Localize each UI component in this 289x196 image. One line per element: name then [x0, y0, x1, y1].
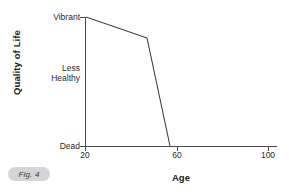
figure-caption-badge: Fig. 4	[8, 167, 50, 181]
x-tick-label-100: 100	[253, 150, 283, 160]
y-tick-label-vibrant: Vibrant	[20, 12, 80, 22]
x-tick-label-60: 60	[162, 150, 192, 160]
figure-screenshot: Quality of Life Age Vibrant Less Healthy…	[0, 0, 289, 196]
x-axis-title: Age	[85, 172, 277, 183]
y-tick-label-less-healthy: Less Healthy	[20, 63, 80, 83]
quality-of-life-series-line	[86, 17, 170, 146]
x-tick-label-20: 20	[70, 150, 100, 160]
